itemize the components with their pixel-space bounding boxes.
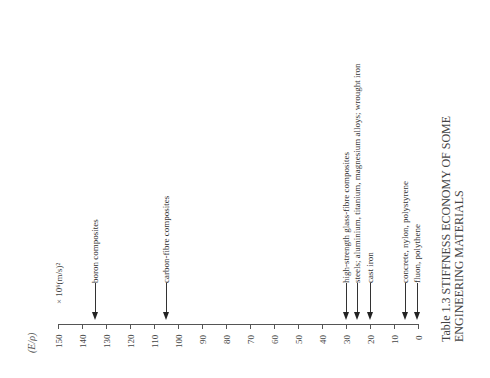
tick — [58, 324, 59, 329]
arrow-steels — [357, 283, 358, 313]
tick-label: 50 — [294, 335, 304, 344]
tick-label: 100 — [174, 335, 184, 349]
material-label: fluon, polythene — [412, 224, 422, 283]
arrowhead-icon — [163, 312, 169, 320]
material-label: cast iron — [365, 252, 375, 283]
tick — [322, 324, 323, 329]
arrow-glass — [346, 283, 347, 313]
value-axis — [58, 324, 419, 325]
tick-label: 120 — [126, 335, 136, 349]
tick — [178, 324, 179, 329]
tick-label: 130 — [102, 335, 112, 349]
tick — [202, 324, 203, 329]
tick — [226, 324, 227, 329]
material-label: high-strength glass-fibre composites — [341, 152, 351, 283]
tick — [298, 324, 299, 329]
tick-label: 110 — [150, 335, 160, 348]
arrowhead-icon — [354, 312, 360, 320]
tick — [370, 324, 371, 329]
arrow-cast-iron — [370, 283, 371, 313]
tick — [250, 324, 251, 329]
material-label: boron composites — [90, 219, 100, 283]
tick — [274, 324, 275, 329]
tick-label: 60 — [270, 335, 280, 344]
tick — [82, 324, 83, 329]
tick-label: 30 — [342, 335, 352, 344]
tick-label: 150 — [54, 335, 64, 349]
chart-title: Table 1.3 STIFFNESS ECONOMY OF SOME ENGI… — [440, 116, 466, 342]
material-label: carbon-fibre composites — [161, 196, 171, 283]
arrow-fluon — [417, 283, 418, 313]
tick — [130, 324, 131, 329]
tick — [106, 324, 107, 329]
tick-label: 40 — [318, 335, 328, 344]
tick-label: 10 — [390, 335, 400, 344]
tick-label: 90 — [198, 335, 208, 344]
tick-label: 70 — [246, 335, 256, 344]
tick — [394, 324, 395, 329]
tick — [346, 324, 347, 329]
tick-label: 80 — [222, 335, 232, 344]
tick — [154, 324, 155, 329]
arrowhead-icon — [92, 312, 98, 320]
units-label: × 10⁶(m/s)² — [54, 263, 64, 304]
material-label: steels; aluminium, titanium, magnesium a… — [352, 64, 362, 283]
arrow-boron — [95, 283, 96, 313]
arrowhead-icon — [367, 312, 373, 320]
arrowhead-icon — [414, 312, 420, 320]
axis-label: (E/ρ) — [26, 333, 37, 353]
arrowhead-icon — [343, 312, 349, 320]
title-line-2: ENGINEERING MATERIALS — [453, 116, 466, 342]
arrow-carbon — [166, 283, 167, 313]
arrow-concrete — [405, 283, 406, 313]
arrowhead-icon — [402, 312, 408, 320]
tick-label: 0 — [414, 336, 424, 341]
tick-label: 20 — [366, 335, 376, 344]
tick — [418, 324, 419, 329]
material-label: concrete, nylon, polystyrene — [400, 181, 410, 283]
tick-label: 140 — [78, 335, 88, 349]
